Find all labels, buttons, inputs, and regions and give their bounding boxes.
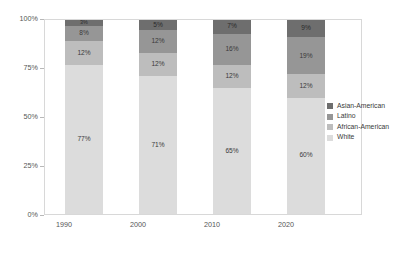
segment-latino-2020[interactable]: 19% <box>287 37 325 74</box>
segment-latino-2010[interactable]: 16% <box>213 34 251 65</box>
segment-value-label: 7% <box>227 23 237 30</box>
legend-item-label: African-American <box>337 124 389 131</box>
legend-swatch-icon <box>327 135 333 141</box>
x-tick-label-1990: 1990 <box>36 221 92 228</box>
segment-value-label: 3% <box>80 20 88 25</box>
y-tick-label-50: 50% <box>4 113 38 120</box>
segment-value-label: 12% <box>151 61 164 68</box>
segment-asian-american-2020[interactable]: 9% <box>287 20 325 37</box>
legend-item-label: Asian-American <box>337 103 385 110</box>
segment-african-american-2020[interactable]: 12% <box>287 74 325 97</box>
legend-item-label: White <box>337 134 354 141</box>
legend-item-latino[interactable]: Latino <box>327 112 389 123</box>
segment-african-american-2010[interactable]: 12% <box>213 65 251 88</box>
segment-african-american-2000[interactable]: 12% <box>139 53 177 76</box>
y-tick-label-0: 0% <box>4 211 38 218</box>
segment-white-2010[interactable]: 65% <box>213 88 251 214</box>
segment-value-label: 77% <box>77 136 90 143</box>
segment-value-label: 9% <box>301 25 311 32</box>
bar-stack: 9% 19% 12% 60% <box>287 20 325 214</box>
legend-item-asian-american[interactable]: Asian-American <box>327 101 389 112</box>
x-tick-label-2020: 2020 <box>258 221 314 228</box>
segment-value-label: 65% <box>225 148 238 155</box>
segment-value-label: 71% <box>151 142 164 149</box>
x-tick-label-2000: 2000 <box>110 221 166 228</box>
segment-value-label: 12% <box>151 38 164 45</box>
segment-asian-american-2010[interactable]: 7% <box>213 20 251 34</box>
bar-group-2010[interactable]: 7% 16% 12% 65% <box>213 20 251 214</box>
segment-latino-1990[interactable]: 8% <box>65 26 103 42</box>
segment-value-label: 16% <box>225 46 238 53</box>
segment-latino-2000[interactable]: 12% <box>139 30 177 53</box>
segment-value-label: 60% <box>299 152 312 159</box>
y-tick-label-25: 25% <box>4 162 38 169</box>
legend-swatch-icon <box>327 103 333 109</box>
segment-value-label: 8% <box>79 30 89 37</box>
segment-white-1990[interactable]: 77% <box>65 65 103 214</box>
bar-group-2000[interactable]: 5% 12% 12% 71% <box>139 20 177 214</box>
segment-value-label: 19% <box>299 53 312 60</box>
plot-area: 3% 8% 12% 77% 5% 12% <box>44 19 362 215</box>
legend-item-white[interactable]: White <box>327 133 389 144</box>
legend: Asian-American Latino African-American W… <box>327 101 389 143</box>
y-tick-label-100: 100% <box>4 15 38 22</box>
y-tick-mark-0 <box>40 215 44 216</box>
segment-value-label: 12% <box>77 50 90 57</box>
segment-white-2000[interactable]: 71% <box>139 76 177 214</box>
legend-swatch-icon <box>327 124 333 130</box>
legend-item-label: Latino <box>337 113 356 120</box>
x-tick-label-2010: 2010 <box>184 221 240 228</box>
stacked-bar-chart: 100% 75% 50% 25% 0% 3% 8% 12% 77 <box>0 0 412 253</box>
bar-stack: 3% 8% 12% 77% <box>65 20 103 214</box>
y-tick-label-75: 75% <box>4 64 38 71</box>
legend-item-african-american[interactable]: African-American <box>327 122 389 133</box>
segment-african-american-1990[interactable]: 12% <box>65 41 103 64</box>
segment-value-label: 12% <box>299 83 312 90</box>
bar-group-1990[interactable]: 3% 8% 12% 77% <box>65 20 103 214</box>
segment-white-2020[interactable]: 60% <box>287 98 325 214</box>
segment-value-label: 5% <box>153 22 163 29</box>
segment-value-label: 12% <box>225 73 238 80</box>
legend-swatch-icon <box>327 114 333 120</box>
bar-stack: 5% 12% 12% 71% <box>139 20 177 214</box>
bar-group-2020[interactable]: 9% 19% 12% 60% <box>287 20 325 214</box>
segment-asian-american-2000[interactable]: 5% <box>139 20 177 30</box>
bar-stack: 7% 16% 12% 65% <box>213 20 251 214</box>
